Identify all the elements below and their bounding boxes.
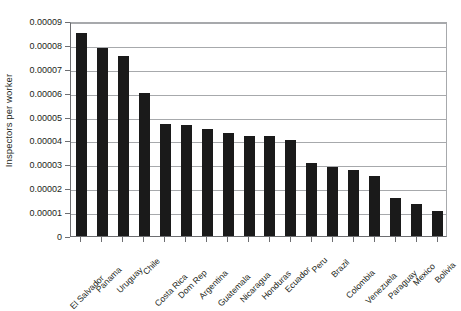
bar xyxy=(118,56,129,236)
bar xyxy=(244,136,255,236)
bars-layer xyxy=(71,23,446,236)
bar xyxy=(202,129,213,237)
y-axis-tick-label: 0.00001 xyxy=(29,208,62,218)
y-axis-tick-label: 0.00007 xyxy=(29,65,62,75)
y-axis-tick-label: 0.00004 xyxy=(29,136,62,146)
y-axis-tick-label: 0.00002 xyxy=(29,184,62,194)
y-axis-tick-label: 0.00008 xyxy=(29,41,62,51)
bar xyxy=(306,163,317,236)
bar xyxy=(76,33,87,236)
x-axis-category-label: Brazil xyxy=(344,242,366,264)
y-axis-title-text: Inspectors per worker xyxy=(4,73,15,166)
bar xyxy=(411,204,422,236)
bar xyxy=(369,176,380,236)
y-axis-tick-label: 0 xyxy=(57,232,62,242)
y-axis-tick-label: 0.00003 xyxy=(29,160,62,170)
y-axis-title: Inspectors per worker xyxy=(0,0,18,240)
bar xyxy=(348,170,359,236)
bar xyxy=(97,48,108,236)
y-axis-tick-label: 0.00006 xyxy=(29,89,62,99)
bar xyxy=(285,140,296,236)
y-axis-tick-label: 0.00009 xyxy=(29,17,62,27)
bar xyxy=(432,211,443,236)
plot-area xyxy=(70,22,447,237)
y-axis-tick-labels: 0.000090.000080.000070.000060.000050.000… xyxy=(18,22,66,237)
bar xyxy=(160,124,171,236)
y-axis-tick-label: 0.00005 xyxy=(29,113,62,123)
bar xyxy=(181,125,192,236)
bar xyxy=(264,136,275,236)
x-axis-category-labels: El SalvadorPanamaUruguayChileCosta RicaD… xyxy=(70,242,460,302)
bar xyxy=(390,198,401,236)
bar xyxy=(139,93,150,236)
x-axis-category-label-text: Brazil xyxy=(329,257,351,279)
bar xyxy=(223,133,234,236)
bar xyxy=(327,167,338,236)
